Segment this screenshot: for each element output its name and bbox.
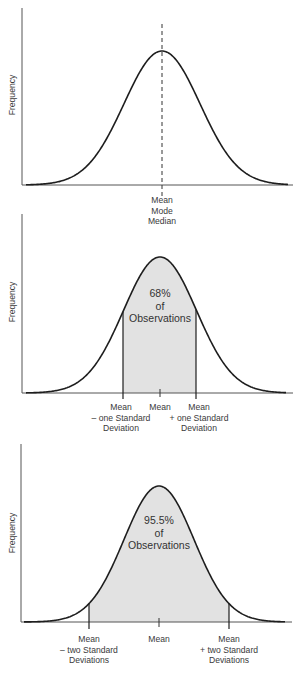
normal-distribution-diagrams bbox=[0, 0, 300, 676]
chart-3-plus-2sd-label: Mean + two Standard Deviations bbox=[200, 634, 258, 666]
chart-2-plus-1sd-label: Mean + one Standard Deviation bbox=[169, 402, 228, 434]
label-line: – two Standard bbox=[60, 645, 118, 656]
label-line: Mode bbox=[148, 206, 176, 217]
label-line: Deviations bbox=[200, 655, 258, 666]
chart-3-shaded-area bbox=[89, 486, 229, 622]
chart-1-mean-mode-median bbox=[22, 8, 293, 196]
chart-3-minus-2sd-label: Mean – two Standard Deviations bbox=[60, 634, 118, 666]
percent-of: of bbox=[128, 527, 190, 540]
label-line: Deviations bbox=[60, 655, 118, 666]
label-line: Mean bbox=[200, 634, 258, 645]
label-line: Mean bbox=[148, 634, 170, 645]
label-line: + one Standard bbox=[169, 413, 228, 424]
chart-2-mean-label: Mean bbox=[149, 402, 171, 413]
chart-2-percent-text: 68% of Observations bbox=[129, 287, 191, 325]
label-line: Median bbox=[148, 216, 176, 227]
label-line: Deviation bbox=[169, 423, 228, 434]
label-line: Mean bbox=[92, 402, 151, 413]
chart-2-y-axis-label: Frequency bbox=[7, 282, 17, 323]
percent-value: 68% bbox=[129, 287, 191, 300]
label-line: Deviation bbox=[92, 423, 151, 434]
percent-observations: Observations bbox=[129, 312, 191, 325]
chart-2-minus-1sd-label: Mean – one Standard Deviation bbox=[92, 402, 151, 434]
chart-1-y-axis-label: Frequency bbox=[7, 75, 17, 116]
label-line: Mean bbox=[149, 402, 171, 413]
percent-value: 95.5% bbox=[128, 514, 190, 527]
chart-1-mean-label: Mean Mode Median bbox=[148, 195, 176, 227]
chart-3-percent-text: 95.5% of Observations bbox=[128, 514, 190, 552]
chart-3-y-axis-label: Frequency bbox=[7, 513, 17, 554]
chart-1-bell-curve bbox=[26, 51, 288, 185]
chart-2-shaded-area bbox=[123, 257, 196, 393]
label-line: – one Standard bbox=[92, 413, 151, 424]
chart-3-mean-label: Mean bbox=[148, 634, 170, 645]
label-line: Mean bbox=[60, 634, 118, 645]
percent-of: of bbox=[129, 300, 191, 313]
percent-observations: Observations bbox=[128, 539, 190, 552]
label-line: Mean bbox=[148, 195, 176, 206]
label-line: Mean bbox=[169, 402, 228, 413]
label-line: + two Standard bbox=[200, 645, 258, 656]
